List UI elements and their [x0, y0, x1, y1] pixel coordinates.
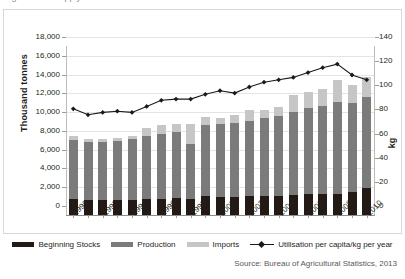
right-axis-tick-label: 120 — [379, 57, 405, 65]
y-axis-tick-label: 2,000 — [4, 183, 60, 191]
legend-item: Utilisation per capita/kg per year — [250, 240, 392, 249]
y-axis-tick-label: 12,000 — [4, 89, 60, 97]
x-axis-tick — [264, 215, 265, 218]
utilisation-line-marker — [320, 65, 325, 70]
legend-item-label: Beginning Stocks — [38, 240, 100, 249]
x-axis-tick — [249, 215, 250, 218]
utilisation-line-marker — [86, 112, 91, 117]
utilisation-line-marker — [306, 70, 311, 75]
gridline — [66, 37, 374, 38]
x-axis-tick — [161, 215, 162, 218]
x-axis-tick — [176, 215, 177, 218]
right-axis-tick-label: 100 — [379, 81, 405, 89]
x-axis-tick — [293, 215, 294, 218]
utilisation-line-marker — [276, 77, 281, 82]
x-axis-tick — [191, 215, 192, 218]
utilisation-line-marker — [203, 92, 208, 97]
right-axis-tick-label: 20 — [379, 178, 405, 186]
y-axis-tick-label: 6,000 — [4, 146, 60, 154]
y-axis-tick-label: 16,000 — [4, 52, 60, 60]
utilisation-line-marker — [159, 98, 164, 103]
utilisation-line-marker — [144, 104, 149, 109]
legend-item-label: Utilisation per capita/kg per year — [278, 240, 392, 249]
y-axis-tick-label: 4,000 — [4, 164, 60, 172]
x-axis-tick — [323, 215, 324, 218]
legend-item: Production — [111, 240, 175, 249]
x-axis-tick — [367, 215, 368, 218]
utilisation-line-marker — [232, 91, 237, 96]
x-axis-tick — [308, 215, 309, 218]
line-series-utilisation — [66, 46, 374, 215]
x-axis-tick — [220, 215, 221, 218]
x-axis-tick — [88, 215, 89, 218]
x-axis-tick — [103, 215, 104, 218]
y-axis-tick-label: 8,000 — [4, 127, 60, 135]
source-note: Source: Bureau of Agricultural Statistic… — [234, 259, 397, 268]
plot-axis-right — [374, 46, 375, 216]
x-axis-tick — [147, 215, 148, 218]
x-axis-tick — [352, 215, 353, 218]
right-axis-tick-label: 140 — [379, 33, 405, 41]
utilisation-line-marker — [262, 80, 267, 85]
x-axis-tick — [132, 215, 133, 218]
legend-swatch-icon — [187, 242, 209, 247]
y-axis-tick-label: 14,000 — [4, 71, 60, 79]
y-axis-tick-label: 18,000 — [4, 33, 60, 41]
plot-area — [66, 46, 374, 215]
utilisation-line-marker — [100, 110, 105, 115]
x-axis-tick — [337, 215, 338, 218]
utilisation-line-marker — [71, 106, 76, 111]
legend-item: Beginning Stocks — [12, 240, 100, 249]
x-axis-tick — [205, 215, 206, 218]
utilisation-line-marker — [174, 97, 179, 102]
figure-container: Figure: Rice supply and utilisation Thou… — [0, 0, 405, 279]
right-axis-tick-label: 40 — [379, 154, 405, 162]
right-axis-tick-label: 60 — [379, 130, 405, 138]
x-axis-tick — [117, 215, 118, 218]
legend-line-marker-icon — [250, 241, 274, 248]
utilisation-line-marker — [247, 85, 252, 90]
utilisation-line-marker — [364, 77, 369, 82]
x-axis-tick — [279, 215, 280, 218]
utilisation-line-marker — [188, 97, 193, 102]
figure-caption-strip: Figure: Rice supply and utilisation — [0, 0, 405, 9]
utilisation-line-marker — [130, 110, 135, 115]
utilisation-line-marker — [291, 75, 296, 80]
figure-caption: Figure: Rice supply and utilisation — [4, 0, 139, 2]
legend-item-label: Production — [137, 240, 175, 249]
x-axis-tick — [73, 215, 74, 218]
x-axis-tick — [235, 215, 236, 218]
legend-item-label: Imports — [213, 240, 240, 249]
y-axis-tick-label: 10,000 — [4, 108, 60, 116]
chart-legend: Beginning StocksProductionImportsUtilisa… — [3, 237, 402, 251]
right-axis-tick-label: 80 — [379, 105, 405, 113]
legend-swatch-icon — [12, 242, 34, 247]
y-axis-tick-label: 0 — [4, 202, 60, 210]
legend-swatch-icon — [111, 242, 133, 247]
utilisation-line-marker — [115, 109, 120, 114]
utilisation-line-marker — [218, 88, 223, 93]
chart-frame: Thousand tonnes kg 02,0004,0006,0008,000… — [3, 9, 402, 234]
legend-item: Imports — [187, 240, 240, 249]
